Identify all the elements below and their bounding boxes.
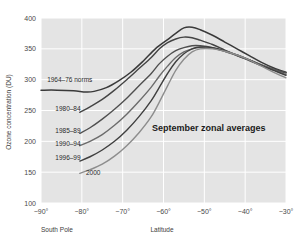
x-tick-label: −70° [115, 208, 130, 215]
x-tick-label: −50° [197, 208, 212, 215]
south-pole-label: South Pole [41, 226, 73, 233]
x-tick-label: −40° [238, 208, 253, 215]
x-tick-label: −60° [156, 208, 171, 215]
y-tick-label: 350 [24, 45, 36, 52]
series-label: 2000 [86, 169, 101, 176]
x-tick-label: −80° [74, 208, 89, 215]
chart-annotation: September zonal averages [152, 123, 266, 133]
y-tick-label: 300 [24, 76, 36, 83]
y-tick-label: 200 [24, 138, 36, 145]
y-tick-label: 400 [24, 15, 36, 22]
series-label: 1964–76 norms [47, 76, 93, 83]
series-label: 1980–84 [55, 105, 81, 112]
series-label: 1996–99 [55, 154, 81, 161]
y-axis-title: Ozone concentration (DU) [5, 74, 13, 150]
series-label: 1990–94 [55, 140, 81, 147]
chart-canvas: −90°−80°−70°−60°−50°−40°−30° 10015020025… [0, 0, 300, 245]
x-axis-title: Latitude [150, 226, 174, 233]
x-tick-label: −30° [279, 208, 294, 215]
y-tick-label: 100 [24, 200, 36, 207]
series-label: 1985–89 [55, 127, 81, 134]
x-tick-label: −90° [34, 208, 49, 215]
y-tick-label: 150 [24, 169, 36, 176]
ozone-latitude-chart: −90°−80°−70°−60°−50°−40°−30° 10015020025… [0, 0, 300, 245]
y-tick-label: 250 [24, 107, 36, 114]
